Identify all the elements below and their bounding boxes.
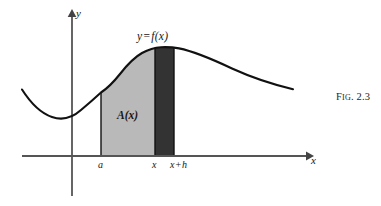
tick-label-x-plus-h: x+h xyxy=(170,160,187,170)
tick-label-a: a xyxy=(98,160,103,170)
figure-caption-smallcaps: IG xyxy=(342,93,351,102)
curve-equation-label: y=f(x) xyxy=(137,31,168,43)
function-area-diagram xyxy=(0,0,381,206)
figure-caption: FIG. 2.3 xyxy=(336,91,370,102)
curve-equation-equals: = xyxy=(142,30,151,42)
tick-label-xh-rhs: h xyxy=(182,159,187,170)
area-label: A(x) xyxy=(117,110,138,122)
curve-equation-rhs: f(x) xyxy=(151,30,168,42)
y-axis-arrow-icon xyxy=(68,9,77,17)
figure-caption-number: . 2.3 xyxy=(351,91,370,102)
y-axis-label: y xyxy=(76,8,81,19)
tick-label-x: x xyxy=(152,160,156,170)
tick-label-xh-operator: + xyxy=(174,159,182,170)
x-axis-label: x xyxy=(311,155,316,166)
figure-container: y x y=f(x) A(x) a x x+h FIG. 2.3 xyxy=(0,0,381,206)
area-region-strip xyxy=(155,47,174,156)
